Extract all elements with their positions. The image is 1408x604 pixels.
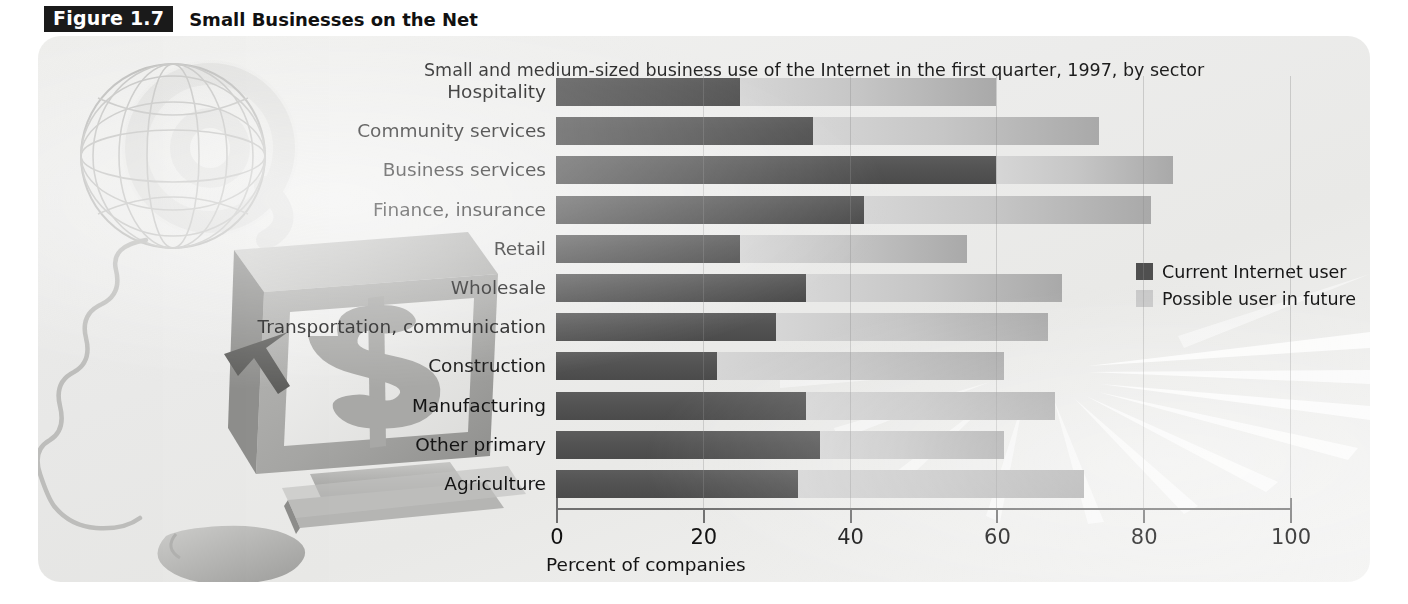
x-tick-label-80: 80: [1131, 525, 1158, 549]
bar-segment-current-user: [556, 431, 820, 459]
category-label: Wholesale: [451, 275, 546, 301]
stacked-bar: [556, 274, 1062, 302]
category-label: Agriculture: [444, 471, 546, 497]
bar-row: Other primary: [38, 431, 1370, 459]
bar-segment-current-user: [556, 156, 996, 184]
bar-segment-current-user: [556, 274, 806, 302]
category-label: Transportation, communication: [258, 314, 546, 340]
x-tick-20: [703, 510, 705, 523]
legend-item[interactable]: Current Internet user: [1136, 258, 1356, 285]
bar-row: Finance, insurance: [38, 196, 1370, 224]
bar-row: Business services: [38, 156, 1370, 184]
gridline-60: [996, 76, 997, 508]
x-axis-line: [556, 508, 1292, 510]
bar-segment-current-user: [556, 117, 813, 145]
category-label: Other primary: [415, 432, 546, 458]
category-label: Business services: [383, 157, 546, 183]
bar-segment-possible-user: [806, 274, 1063, 302]
x-tick-label-100: 100: [1271, 525, 1311, 549]
x-tick-label-20: 20: [690, 525, 717, 549]
bar-segment-possible-user: [717, 352, 1003, 380]
legend-swatch-current: [1136, 263, 1153, 280]
stacked-bar: [556, 235, 967, 263]
x-tick-60: [996, 510, 998, 523]
stacked-bar: [556, 352, 1004, 380]
category-label: Construction: [428, 353, 546, 379]
x-tick-0: [556, 510, 558, 523]
chart-subtitle: Small and medium-sized business use of t…: [424, 60, 1204, 80]
bar-segment-current-user: [556, 313, 776, 341]
stacked-bar: [556, 470, 1084, 498]
category-label: Hospitality: [447, 79, 546, 105]
bar-segment-possible-user: [864, 196, 1150, 224]
bar-segment-possible-user: [996, 156, 1172, 184]
stacked-bar: [556, 431, 1004, 459]
bar-segment-current-user: [556, 352, 717, 380]
bar-segment-current-user: [556, 470, 798, 498]
stacked-bar: [556, 117, 1099, 145]
legend-item[interactable]: Possible user in future: [1136, 285, 1356, 312]
stacked-bar: [556, 392, 1055, 420]
x-tick-80: [1143, 510, 1145, 523]
figure-header: Figure 1.7 Small Businesses on the Net: [44, 6, 478, 32]
gridline-20: [703, 76, 704, 508]
category-label: Finance, insurance: [373, 197, 546, 223]
x-tick-label-0: 0: [550, 525, 563, 549]
stacked-bar: [556, 78, 996, 106]
bar-segment-possible-user: [806, 392, 1056, 420]
figure-panel: Small and medium-sized business use of t…: [38, 36, 1370, 582]
legend-label: Current Internet user: [1162, 262, 1347, 282]
bar-segment-possible-user: [740, 235, 968, 263]
gridline-80: [1143, 76, 1144, 508]
category-label: Community services: [357, 118, 546, 144]
legend-label: Possible user in future: [1162, 289, 1356, 309]
gridline-100: [1290, 76, 1291, 508]
x-tick-label-40: 40: [837, 525, 864, 549]
x-axis-title: Percent of companies: [546, 554, 746, 575]
stacked-bar: [556, 156, 1173, 184]
bar-row: Community services: [38, 117, 1370, 145]
bar-row: Construction: [38, 352, 1370, 380]
bar-segment-possible-user: [740, 78, 997, 106]
stacked-bar: [556, 196, 1151, 224]
chart: Small and medium-sized business use of t…: [38, 36, 1370, 582]
bar-segment-possible-user: [776, 313, 1048, 341]
bar-segment-possible-user: [798, 470, 1084, 498]
figure-number-badge: Figure 1.7: [44, 6, 173, 32]
bar-segment-current-user: [556, 235, 740, 263]
chart-legend: Current Internet userPossible user in fu…: [1136, 258, 1356, 312]
stacked-bar: [556, 313, 1048, 341]
legend-swatch-future: [1136, 290, 1153, 307]
x-axis-left-cap: [556, 498, 558, 510]
category-label: Retail: [494, 236, 546, 262]
bar-segment-current-user: [556, 78, 740, 106]
bar-segment-possible-user: [820, 431, 1004, 459]
bar-segment-current-user: [556, 196, 864, 224]
bar-segment-possible-user: [813, 117, 1099, 145]
bar-row: Transportation, communication: [38, 313, 1370, 341]
x-tick-100: [1290, 510, 1292, 523]
gridline-40: [850, 76, 851, 508]
bar-segment-current-user: [556, 392, 806, 420]
figure-title: Small Businesses on the Net: [189, 9, 478, 30]
bar-row: Manufacturing: [38, 392, 1370, 420]
x-tick-label-60: 60: [984, 525, 1011, 549]
category-label: Manufacturing: [412, 393, 546, 419]
bar-row: Hospitality: [38, 78, 1370, 106]
bar-row: Agriculture: [38, 470, 1370, 498]
x-tick-40: [850, 510, 852, 523]
